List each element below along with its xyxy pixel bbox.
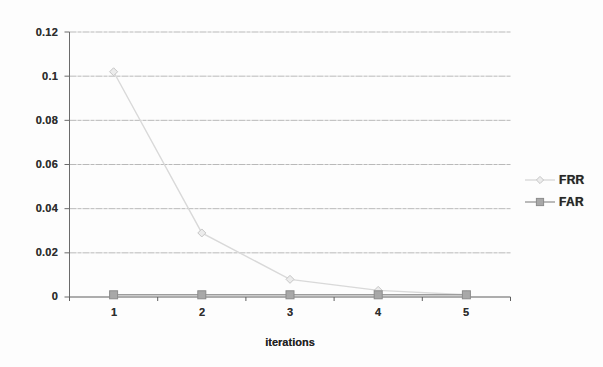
x-axis-title: iterations [69, 336, 511, 348]
ytick-0.1: 0.1 [16, 70, 58, 82]
legend-label-far: FAR [559, 195, 584, 209]
legend-entry-far: FAR [525, 195, 585, 209]
xtick-5: 5 [454, 306, 478, 318]
ytick-0.02: 0.02 [16, 246, 58, 258]
axis-ticks [65, 32, 511, 301]
xtick-3: 3 [278, 306, 302, 318]
ytick-0.06: 0.06 [16, 158, 58, 170]
legend: FRR FAR [525, 173, 585, 217]
ytick-0.12: 0.12 [16, 26, 58, 38]
gridlines [70, 32, 511, 253]
ytick-0.04: 0.04 [16, 202, 58, 214]
frr-line-marker-icon [525, 174, 555, 186]
ytick-0: 0 [16, 290, 58, 302]
series-layer [110, 68, 471, 299]
legend-entry-frr: FRR [525, 173, 585, 187]
far-line-marker-icon [525, 196, 555, 208]
xtick-4: 4 [366, 306, 390, 318]
xtick-2: 2 [190, 306, 214, 318]
error-rate-line-chart: 0.12 0.1 0.08 0.06 0.04 0.02 0 1 2 3 4 5… [0, 0, 603, 367]
legend-label-frr: FRR [559, 173, 585, 187]
xtick-1: 1 [102, 306, 126, 318]
ytick-0.08: 0.08 [16, 114, 58, 126]
